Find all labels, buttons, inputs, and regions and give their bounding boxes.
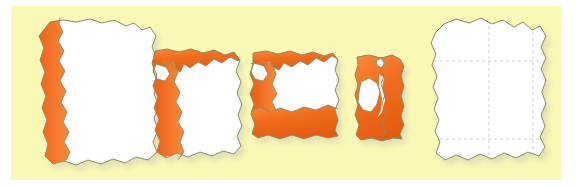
shape-step-3 bbox=[250, 50, 346, 146]
shape-step-2 bbox=[150, 48, 250, 164]
diagram-panel bbox=[11, 6, 561, 180]
shape-step-1 bbox=[30, 14, 160, 170]
shape-sequence-stage bbox=[11, 6, 561, 180]
shape-step-5 bbox=[422, 14, 556, 170]
shape-step-4 bbox=[355, 54, 411, 146]
figure-root: Progressive shape fill sequence Five irr… bbox=[0, 0, 576, 186]
